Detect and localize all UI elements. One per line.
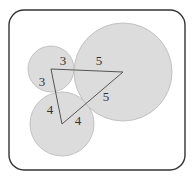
length-label: 5 (103, 89, 110, 104)
length-label: 3 (39, 74, 46, 89)
length-label: 3 (60, 53, 67, 68)
tangent-circles-diagram: 335544 (0, 0, 192, 179)
length-label: 5 (96, 53, 103, 68)
length-label: 4 (47, 102, 54, 117)
length-label: 4 (75, 113, 82, 128)
